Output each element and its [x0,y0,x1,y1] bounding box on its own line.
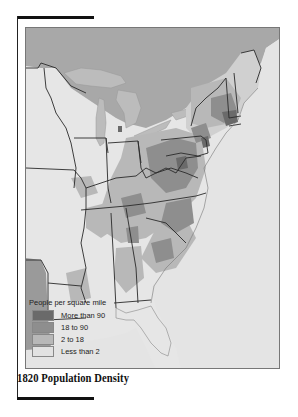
left-rule [17,16,18,400]
legend-title: People per square mile [29,298,128,307]
legend: People per square mile More than 90 18 t… [28,298,128,357]
legend-item: 18 to 90 [28,321,128,333]
legend-item: More than 90 [28,309,128,321]
bottom-rule [17,397,94,400]
legend-swatch [32,334,54,345]
legend-label: 2 to 18 [61,335,84,344]
population-density-map: People per square mile More than 90 18 t… [25,27,280,369]
legend-item: Less than 2 [28,345,128,357]
legend-swatch [32,322,54,333]
top-rule [17,16,94,19]
legend-label: Less than 2 [61,347,100,356]
legend-item: 2 to 18 [28,333,128,345]
map-caption: 1820 Population Density [17,372,129,384]
legend-label: 18 to 90 [61,323,88,332]
legend-swatch [32,310,54,321]
legend-label: More than 90 [61,311,105,320]
legend-swatch [32,346,54,357]
